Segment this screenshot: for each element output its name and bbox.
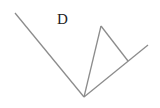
connector-segment: [101, 26, 128, 61]
right-ray: [84, 45, 148, 97]
left-ray: [15, 13, 84, 97]
inner-segment: [84, 26, 101, 97]
label-d: D: [57, 11, 68, 27]
geometry-diagram: D: [0, 0, 160, 108]
